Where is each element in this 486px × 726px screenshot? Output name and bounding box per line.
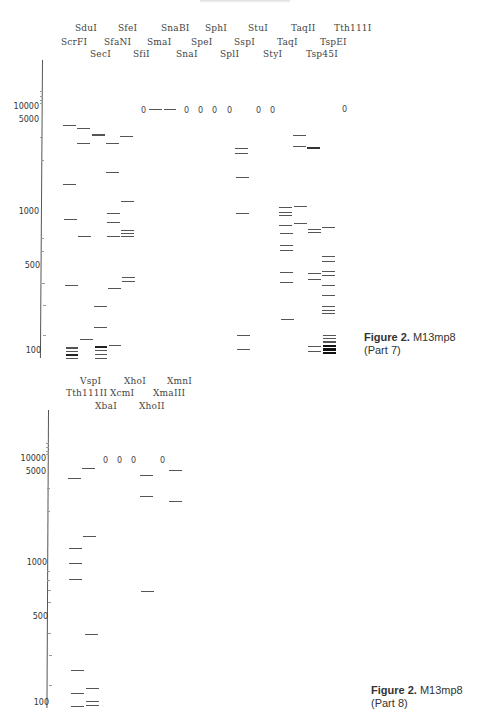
band <box>107 222 120 223</box>
band <box>106 143 119 144</box>
uncut-marker: 0 <box>227 106 232 115</box>
band <box>293 146 306 147</box>
y-axis <box>40 60 43 358</box>
figure-caption: Figure 2. M13mp8 (Part 8) <box>371 684 463 710</box>
y-tick-label: 10000 <box>0 102 39 111</box>
band <box>77 143 90 144</box>
y-tick-label: 100 <box>9 698 49 707</box>
enzyme-label: SduI <box>75 23 97 33</box>
band <box>279 212 292 213</box>
band <box>237 335 250 336</box>
axis-minor-tick <box>41 251 44 252</box>
enzyme-label: TaqII <box>291 23 316 33</box>
axis-minor-tick <box>48 633 51 634</box>
band <box>85 634 98 635</box>
band <box>86 701 99 702</box>
uncut-marker: 0 <box>256 106 261 115</box>
axis-minor-tick <box>47 571 50 572</box>
enzyme-label: SfaNI <box>104 37 131 47</box>
band <box>107 213 120 214</box>
band <box>122 281 135 282</box>
band <box>322 313 335 314</box>
enzyme-label: Tth111II <box>66 388 107 398</box>
enzyme-label: XcmI <box>110 388 134 398</box>
band <box>323 338 336 339</box>
band <box>322 227 335 228</box>
band <box>83 536 96 537</box>
band <box>280 233 293 234</box>
band <box>95 354 107 355</box>
caption-label: Figure 2. <box>371 684 417 696</box>
axis-minor-tick <box>40 100 43 101</box>
band <box>308 346 321 347</box>
uncut-marker: 0 <box>131 456 136 465</box>
band <box>71 706 84 707</box>
enzyme-label: TaqI <box>277 37 298 47</box>
caption-label: Figure 2. <box>364 331 410 343</box>
band <box>68 478 81 479</box>
band <box>120 136 133 137</box>
uncut-marker: 0 <box>342 105 347 114</box>
band <box>77 128 90 129</box>
band <box>294 223 307 224</box>
band <box>121 230 134 231</box>
band <box>94 306 107 307</box>
enzyme-label: SmaI <box>147 37 171 47</box>
uncut-marker: 0 <box>212 106 217 115</box>
band <box>323 348 336 351</box>
axis-minor-tick <box>41 160 44 161</box>
band <box>71 693 84 694</box>
band <box>322 295 335 296</box>
band <box>235 153 248 154</box>
band <box>279 207 292 208</box>
band <box>322 256 335 257</box>
band <box>69 579 82 580</box>
band <box>95 358 107 359</box>
enzyme-label: XhoII <box>139 401 165 411</box>
band <box>281 319 294 320</box>
enzyme-label: Tsp45I <box>306 49 338 59</box>
axis-minor-tick <box>40 103 43 104</box>
band <box>280 245 293 246</box>
band <box>322 271 335 272</box>
band <box>308 232 321 233</box>
y-tick-label: 10000 <box>6 454 46 463</box>
band <box>64 219 77 220</box>
y-tick-label: 1000 <box>0 207 39 216</box>
enzyme-label: SspI <box>234 37 255 47</box>
axis-minor-tick <box>40 91 43 92</box>
band <box>106 172 119 173</box>
band <box>92 134 105 136</box>
band <box>322 285 335 286</box>
band <box>280 250 293 251</box>
band <box>78 236 91 237</box>
axis-minor-tick <box>47 580 50 581</box>
band <box>63 125 76 126</box>
enzyme-label: SnaI <box>176 49 198 59</box>
uncut-marker: 0 <box>117 456 122 465</box>
band <box>322 310 335 311</box>
band <box>323 352 336 354</box>
band <box>235 148 248 149</box>
uncut-marker: 0 <box>160 456 165 465</box>
y-tick-label: 5000 <box>0 115 39 124</box>
band <box>140 475 153 476</box>
uncut-marker: 0 <box>103 456 108 465</box>
band <box>121 201 134 202</box>
band <box>109 345 121 346</box>
band <box>323 341 336 343</box>
band <box>107 236 120 237</box>
band <box>65 285 78 286</box>
uncut-marker: 0 <box>141 106 146 115</box>
band <box>121 236 134 237</box>
band <box>294 206 307 207</box>
caption-title: M13mp8 <box>417 684 463 696</box>
band <box>95 346 107 348</box>
axis-minor-tick <box>47 511 50 512</box>
enzyme-label: TspEI <box>320 37 347 47</box>
uncut-marker: 0 <box>198 106 203 115</box>
enzyme-label: StuI <box>248 23 268 33</box>
band <box>82 468 95 469</box>
band <box>69 548 82 549</box>
enzyme-label: SnaBI <box>161 23 190 33</box>
